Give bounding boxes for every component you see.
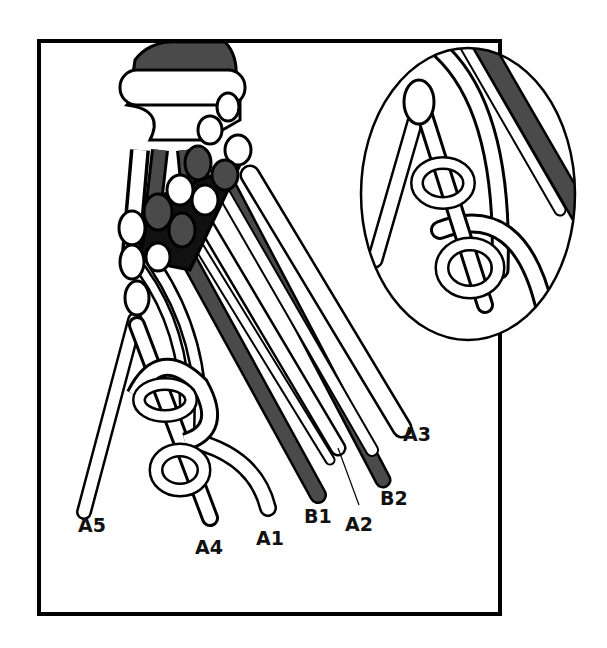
- label-a2: A2: [345, 513, 373, 535]
- inset-magnifier: [361, 40, 590, 340]
- macrame-diagram: A5 A4 A1 B1 A2 B2 A3: [0, 0, 607, 648]
- label-a4: A4: [195, 536, 223, 558]
- label-a1: A1: [256, 527, 284, 549]
- label-a3: A3: [403, 423, 431, 445]
- label-a5: A5: [78, 514, 106, 536]
- label-b1: B1: [304, 505, 332, 527]
- label-b2: B2: [380, 487, 408, 509]
